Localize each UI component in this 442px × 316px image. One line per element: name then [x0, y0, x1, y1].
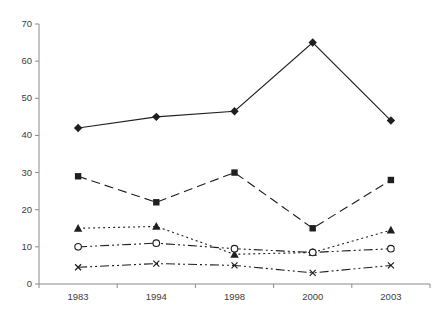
series-square-dashed-marker: [231, 169, 237, 175]
y-axis-tick-label: 20: [21, 204, 32, 215]
series-circle-dashdotdot-marker: [231, 245, 238, 252]
y-axis-tick-label: 30: [21, 167, 32, 178]
line-chart-svg: 01020304050607019831994199820002003: [0, 0, 442, 316]
y-axis-tick-label: 70: [21, 18, 32, 29]
series-x-dashdotdot-marker: [153, 261, 159, 267]
series-circle-dashdotdot-marker: [309, 249, 316, 256]
x-axis-category-label: 2003: [380, 291, 401, 302]
series-triangle-dotted-marker: [74, 224, 82, 232]
x-axis-category-label: 1983: [68, 291, 89, 302]
series-square-dashed-marker: [388, 177, 394, 183]
series-square-dashed-line: [78, 173, 391, 229]
series-circle-dashdotdot-marker: [153, 240, 160, 247]
series-square-dashed-marker: [153, 199, 159, 205]
series-diamond-solid-marker: [74, 124, 82, 132]
series-triangle-dotted-marker: [152, 222, 160, 230]
series-square-dashed-marker: [75, 173, 81, 179]
series-circle-dashdotdot-marker: [388, 245, 395, 252]
line-chart: 01020304050607019831994199820002003: [0, 0, 442, 316]
y-axis-tick-label: 0: [27, 278, 32, 289]
series-circle-dashdotdot-marker: [75, 244, 82, 251]
series-triangle-dotted-marker: [387, 226, 395, 234]
x-axis-category-label: 1998: [224, 291, 245, 302]
series-square-dashed-marker: [310, 225, 316, 231]
y-axis-tick-label: 40: [21, 129, 32, 140]
x-axis-category-label: 2000: [302, 291, 323, 302]
y-axis-tick-label: 10: [21, 241, 32, 252]
y-axis-tick-label: 50: [21, 92, 32, 103]
x-axis-category-label: 1994: [146, 291, 167, 302]
y-axis-tick-label: 60: [21, 55, 32, 66]
series-diamond-solid-marker: [152, 113, 160, 121]
